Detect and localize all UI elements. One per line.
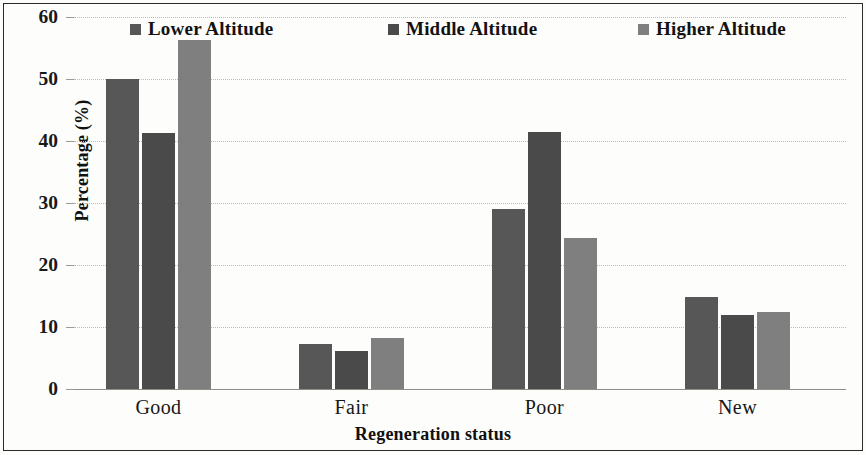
bar: [564, 238, 597, 389]
plot-area: [74, 17, 846, 389]
bar: [371, 338, 404, 389]
bar: [757, 312, 790, 389]
y-tick-mark: [66, 141, 74, 142]
y-tick-text: 10: [39, 316, 59, 338]
bar: [106, 79, 139, 389]
y-tick-mark: [66, 265, 74, 266]
bar: [178, 40, 211, 389]
y-tick-mark: [66, 17, 74, 18]
y-tick-text: 0: [48, 378, 58, 400]
legend-swatch-icon: [638, 24, 649, 35]
bar-fill: [685, 297, 718, 389]
bar: [492, 209, 525, 389]
legend-item: Middle Altitude: [388, 18, 537, 40]
x-tick-label: New: [645, 396, 830, 419]
bar-fill: [178, 40, 211, 389]
y-tick-text: 50: [39, 68, 59, 90]
bar: [299, 344, 332, 389]
y-tick-text: 40: [39, 130, 59, 152]
bar-fill: [564, 238, 597, 389]
y-axis-ticks: 0102030405060: [0, 17, 66, 389]
bar-fill: [757, 312, 790, 389]
bar-fill: [528, 132, 561, 389]
bar-fill: [106, 79, 139, 389]
bar-fill: [371, 338, 404, 389]
bar-fill: [335, 351, 368, 389]
bar: [528, 132, 561, 389]
bar: [142, 133, 175, 389]
x-tick-label: Good: [66, 396, 251, 419]
legend-label: Lower Altitude: [148, 18, 273, 40]
legend-label: Higher Altitude: [656, 18, 786, 40]
x-tick-label: Poor: [452, 396, 637, 419]
bar-fill: [299, 344, 332, 389]
legend-swatch-icon: [388, 24, 399, 35]
x-axis-tick-labels: GoodFairPoorNew: [74, 396, 846, 424]
legend-item: Higher Altitude: [638, 18, 786, 40]
y-tick-mark: [66, 389, 74, 390]
y-tick-mark: [66, 79, 74, 80]
y-tick-mark: [66, 203, 74, 204]
chart-legend: Lower AltitudeMiddle AltitudeHigher Alti…: [130, 18, 830, 44]
y-tick-mark: [66, 327, 74, 328]
bar: [721, 315, 754, 389]
bar-group: [299, 17, 404, 389]
legend-swatch-icon: [130, 24, 141, 35]
legend-label: Middle Altitude: [406, 18, 537, 40]
legend-item: Lower Altitude: [130, 18, 273, 40]
bar-fill: [142, 133, 175, 389]
y-tick-text: 60: [39, 6, 59, 28]
bar-chart-figure: 0102030405060 Percentage (%) GoodFairPoo…: [0, 0, 866, 455]
bar: [685, 297, 718, 389]
bar-group: [106, 17, 211, 389]
y-tick-text: 20: [39, 254, 59, 276]
bar-fill: [721, 315, 754, 389]
bar-fill: [492, 209, 525, 389]
x-tick-label: Fair: [259, 396, 444, 419]
y-tick-text: 30: [39, 192, 59, 214]
x-axis-title: Regeneration status: [0, 424, 866, 445]
axis-baseline: [74, 389, 846, 390]
bar-group: [685, 17, 790, 389]
bar-group: [492, 17, 597, 389]
bar: [335, 351, 368, 389]
